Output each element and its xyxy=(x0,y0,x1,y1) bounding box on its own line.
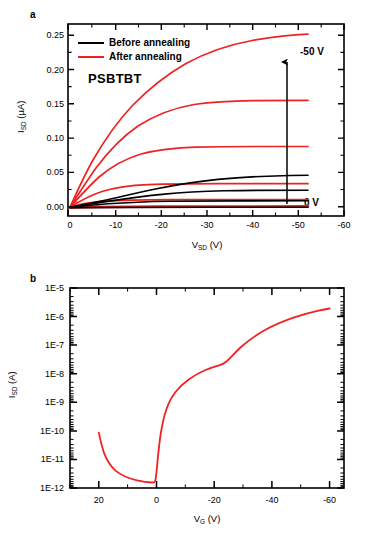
panel-b-frame xyxy=(70,288,344,488)
curve-transfer xyxy=(99,309,330,483)
panel-b-xticks-minor xyxy=(70,288,301,488)
panel-a-xticks xyxy=(68,24,344,216)
curve-after-vg-50 xyxy=(70,34,308,207)
panel-b-yticks xyxy=(70,288,344,488)
panel-a: a 0.25 0.20 0.15 0.10 0.05 0.00 0 -10 -2… xyxy=(0,0,365,262)
panel-b-yticks-minor xyxy=(70,297,344,487)
panel-a-plot xyxy=(0,0,365,262)
panel-a-frame xyxy=(68,24,344,216)
figure-container: a 0.25 0.20 0.15 0.10 0.05 0.00 0 -10 -2… xyxy=(0,0,365,544)
panel-b: b 1E-5 1E-6 1E-7 1E-8 1E-9 1E-10 1E-11 1… xyxy=(0,262,365,544)
panel-b-plot xyxy=(0,262,365,544)
